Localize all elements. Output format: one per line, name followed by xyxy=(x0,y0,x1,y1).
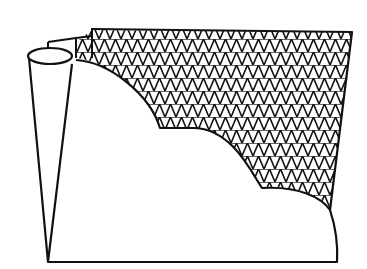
illustration-canvas xyxy=(0,0,367,269)
curled-edge xyxy=(28,48,72,262)
mesh-region xyxy=(60,20,360,220)
line-art-drawing xyxy=(0,0,367,269)
